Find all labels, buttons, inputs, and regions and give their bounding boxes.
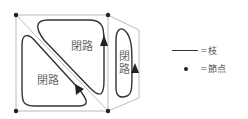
branch-line-icon: [172, 50, 198, 51]
node-dot: [106, 13, 110, 17]
node-dot: [14, 13, 18, 17]
node-dot: [106, 109, 110, 113]
branch-diagonal: [16, 15, 108, 111]
legend-node-label: =節点: [200, 62, 226, 75]
legend-branch-label: =枝: [200, 44, 217, 57]
loop-label: 閉路: [71, 40, 93, 53]
node-dot: [14, 109, 18, 113]
arrow-up-icon: [100, 35, 108, 46]
node-dot-icon: [184, 67, 188, 71]
legend-node: =節点: [172, 62, 226, 75]
circuit-graph-diagram: 閉路 閉路 閉路: [0, 0, 170, 119]
loop-label-vertical: 閉路: [119, 50, 130, 76]
legend-branch: =枝: [172, 44, 217, 57]
loop-label: 閉路: [37, 74, 59, 87]
